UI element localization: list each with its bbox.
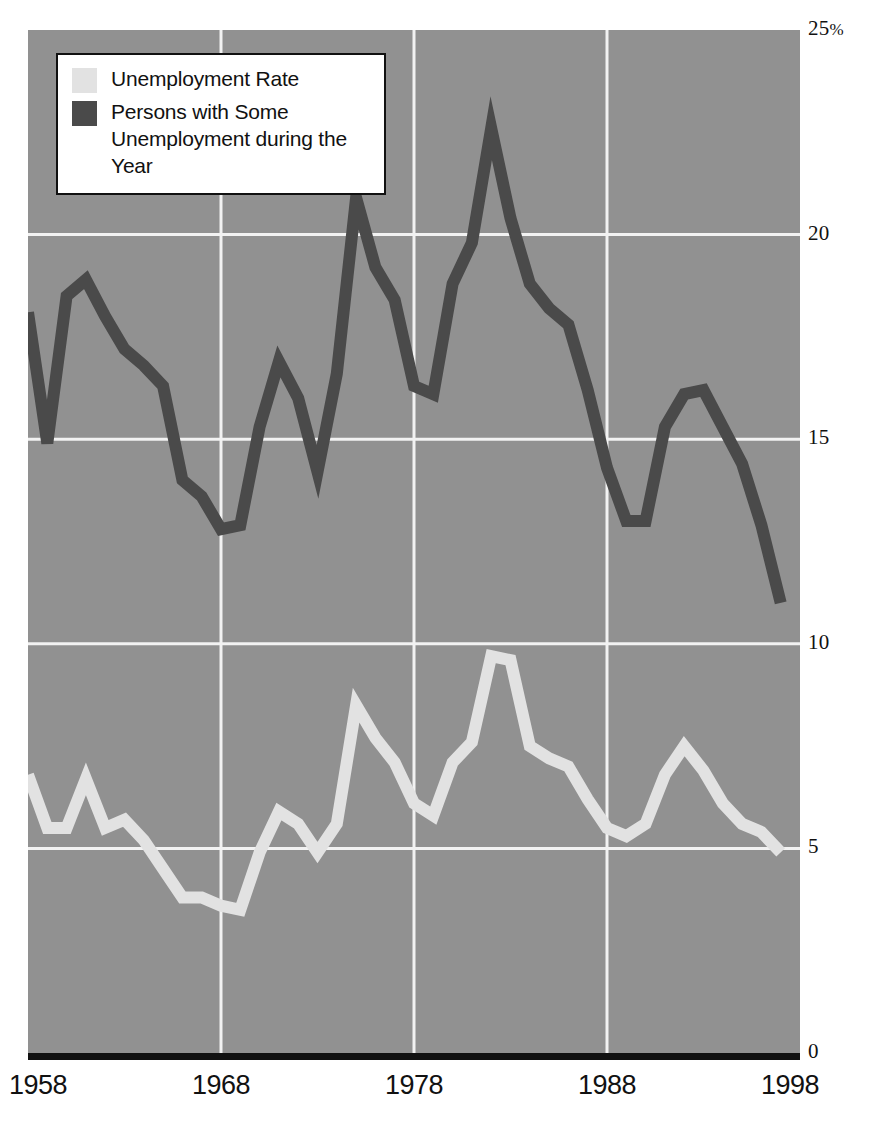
legend-swatch-dark-icon: [72, 101, 97, 126]
x-axis-tick-1968: 1968: [192, 1070, 250, 1101]
x-axis-tick-1978: 1978: [385, 1070, 443, 1101]
x-axis-tick-1988: 1988: [578, 1070, 636, 1101]
y-axis-tick-5: 5: [808, 834, 819, 859]
x-axis-tick-1998: 1998: [761, 1070, 819, 1101]
legend-label-persons-with-some-unemployment: Persons with Some Unemployment during th…: [111, 99, 368, 180]
series-lines: [28, 128, 781, 910]
legend-swatch-light-icon: [72, 68, 97, 93]
legend-item-unemployment-rate: Unemployment Rate: [72, 66, 368, 93]
legend-label-line-2: Unemployment during the Year: [111, 127, 347, 177]
series-line-unemployment-rate: [28, 656, 781, 910]
y-axis-percent-symbol: %: [830, 20, 844, 39]
x-axis-tick-1958: 1958: [9, 1070, 67, 1101]
y-axis-tick-10: 10: [808, 630, 830, 655]
series-line-persons-with-some-unemployment: [28, 128, 781, 603]
legend-item-persons-with-some-unemployment: Persons with Some Unemployment during th…: [72, 99, 368, 180]
legend-label-unemployment-rate: Unemployment Rate: [111, 66, 299, 93]
y-axis-labels: 25% 20 15 10 5 0: [808, 0, 873, 1126]
y-axis-tick-0: 0: [808, 1039, 819, 1064]
chart-legend: Unemployment Rate Persons with Some Unem…: [56, 53, 386, 195]
y-axis-tick-25: 25%: [808, 16, 844, 41]
y-axis-tick-25-value: 25: [808, 16, 830, 40]
y-axis-tick-20: 20: [808, 221, 830, 246]
legend-label-line-1: Persons with Some: [111, 100, 289, 123]
x-axis-baseline: [28, 1053, 800, 1060]
chart-root: Unemployment Rate Persons with Some Unem…: [0, 0, 873, 1126]
y-axis-tick-15: 15: [808, 425, 830, 450]
x-axis-labels: 1958 1968 1978 1988 1998: [0, 1070, 873, 1114]
